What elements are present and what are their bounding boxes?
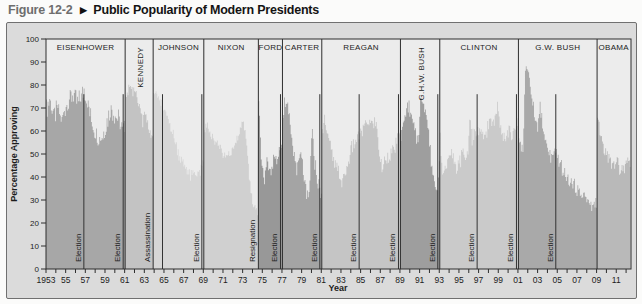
election-label: Election <box>546 234 555 262</box>
y-tick-label: 90 <box>30 58 39 67</box>
election-label: Election <box>113 234 122 262</box>
president-label-reagan: REAGAN <box>343 43 379 52</box>
y-tick-label: 20 <box>30 219 39 228</box>
president-label-g-w-bush: G.W. BUSH <box>535 43 580 52</box>
x-tick-label: 09 <box>592 275 602 285</box>
x-tick-label: 91 <box>415 275 425 285</box>
x-tick-label: 87 <box>376 275 386 285</box>
election-label: Election <box>506 234 515 262</box>
election-label: Election <box>192 234 201 262</box>
x-tick-label: 59 <box>100 275 110 285</box>
president-label-ford: FORD <box>258 43 282 52</box>
president-label-nixon: NIXON <box>218 43 245 52</box>
x-tick-label: 57 <box>81 275 91 285</box>
x-tick-label: 69 <box>199 275 209 285</box>
x-tick-label: 99 <box>494 275 504 285</box>
president-label-eisenhower: EISENHOWER <box>57 43 115 52</box>
y-axis-title: Percentage Approving <box>9 106 19 202</box>
x-tick-label: 05 <box>553 275 563 285</box>
caret-icon: ▶ <box>80 6 87 15</box>
y-tick-label: 50 <box>30 150 39 159</box>
president-label-obama: OBAMA <box>599 43 630 52</box>
y-tick-label: 0 <box>35 265 40 274</box>
election-label: Election <box>388 234 397 262</box>
y-tick-label: 60 <box>30 127 39 136</box>
election-label: Election <box>349 234 358 262</box>
event-label: Resignation <box>248 220 257 262</box>
x-tick-label: 1953 <box>37 275 56 285</box>
x-tick-label: 73 <box>238 275 248 285</box>
x-tick-label: 77 <box>277 275 287 285</box>
president-label-clinton: CLINTON <box>461 43 498 52</box>
page: Figure 12-2 ▶ Public Popularity of Moder… <box>0 0 642 304</box>
x-tick-label: 01 <box>513 275 523 285</box>
y-tick-label: 100 <box>26 35 40 44</box>
election-label: Election <box>270 234 279 262</box>
x-tick-label: 63 <box>140 275 150 285</box>
x-tick-label: 55 <box>61 275 71 285</box>
y-tick-label: 70 <box>30 104 39 113</box>
x-tick-label: 97 <box>474 275 484 285</box>
election-label: Election <box>467 234 476 262</box>
election-label: Election <box>74 234 83 262</box>
x-tick-label: 07 <box>572 275 582 285</box>
y-tick-label: 80 <box>30 81 39 90</box>
figure-caption: Figure 12-2 ▶ Public Popularity of Moder… <box>8 3 319 17</box>
president-label-johnson: JOHNSON <box>158 43 199 52</box>
president-label-carter: CARTER <box>285 43 320 52</box>
x-tick-label: 79 <box>297 275 307 285</box>
x-tick-label: 93 <box>435 275 445 285</box>
x-tick-label: 71 <box>218 275 228 285</box>
x-tick-label: 83 <box>336 275 346 285</box>
x-tick-label: 03 <box>533 275 543 285</box>
x-tick-label: 75 <box>258 275 268 285</box>
president-label-g-h-w-bush: G.H.W. BUSH <box>417 47 426 101</box>
y-tick-label: 30 <box>30 196 39 205</box>
figure-title: Public Popularity of Modern Presidents <box>93 3 319 17</box>
x-tick-label: 89 <box>395 275 405 285</box>
x-tick-label: 67 <box>179 275 189 285</box>
x-tick-label: 81 <box>317 275 327 285</box>
figure-number: Figure 12-2 <box>8 3 73 17</box>
approval-chart: Percentage Approving Year ElectionElecti… <box>7 23 636 298</box>
x-tick-label: 11 <box>612 275 621 285</box>
president-label-kennedy: KENNEDY <box>136 47 145 88</box>
y-tick-label: 10 <box>30 242 39 251</box>
x-tick-label: 85 <box>356 275 366 285</box>
x-tick-label: 61 <box>120 275 130 285</box>
election-label: Election <box>310 234 319 262</box>
x-tick-label: 95 <box>454 275 464 285</box>
chart-generated-content: ElectionElectionElectionElectionElection… <box>26 35 631 285</box>
x-tick-label: 65 <box>159 275 169 285</box>
figure-box: Percentage Approving Year ElectionElecti… <box>6 22 637 299</box>
y-tick-label: 40 <box>30 173 39 182</box>
event-label: Assassination <box>143 213 152 262</box>
election-label: Election <box>428 234 437 262</box>
